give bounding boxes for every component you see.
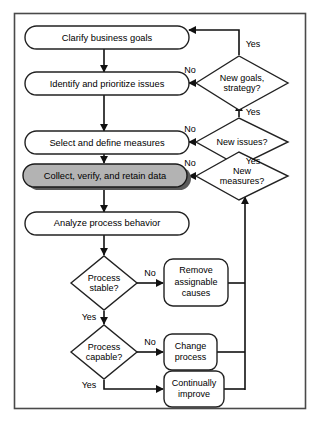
label-stable-no: No: [144, 268, 156, 278]
change-process-label-line2: process: [175, 352, 207, 362]
continually-improve-label-line1: Continually: [172, 378, 217, 388]
node-remove-assignable-causes[interactable]: Remove assignable causes: [164, 259, 228, 306]
new-goals-label-line2: strategy?: [223, 83, 260, 93]
node-identify-prioritize-issues[interactable]: Identify and prioritize issues: [25, 72, 189, 95]
label-new-goals-yes: Yes: [246, 39, 261, 49]
clarify-goals-label: Clarify business goals: [62, 33, 153, 43]
label-new-issues-yes: Yes: [246, 107, 261, 117]
new-measures-label-line1: New: [233, 166, 252, 176]
node-select-define-measures[interactable]: Select and define measures: [25, 131, 189, 154]
label-new-measures-yes: Yes: [246, 156, 261, 166]
process-capable-label-line1: Process: [88, 342, 121, 352]
new-goals-label-line1: New goals,: [220, 73, 265, 83]
change-process-label-line1: Change: [175, 341, 207, 351]
label-stable-yes: Yes: [82, 312, 97, 322]
new-measures-label-line2: measures?: [220, 176, 265, 186]
remove-causes-label-line2: assignable: [174, 277, 217, 287]
process-capable-label-line2: capable?: [86, 352, 123, 362]
node-change-process[interactable]: Change process: [164, 334, 217, 370]
node-analyze-process-behavior[interactable]: Analyze process behavior: [25, 212, 189, 235]
label-capable-yes: Yes: [82, 380, 97, 390]
process-stable-label-line1: Process: [88, 273, 121, 283]
flowchart-container: Clarify business goals Identify and prio…: [0, 0, 320, 423]
node-continually-improve[interactable]: Continually improve: [164, 371, 224, 407]
analyze-behavior-label: Analyze process behavior: [54, 218, 160, 228]
label-new-measures-no: No: [184, 158, 196, 168]
remove-causes-label-line3: causes: [182, 288, 211, 298]
identify-issues-label: Identify and prioritize issues: [50, 79, 165, 89]
remove-causes-label-line1: Remove: [179, 265, 213, 275]
select-measures-label: Select and define measures: [49, 138, 165, 148]
process-stable-label-line2: stable?: [89, 283, 118, 293]
collect-data-label: Collect, verify, and retain data: [44, 171, 167, 181]
label-capable-no: No: [144, 337, 156, 347]
label-new-issues-no: No: [184, 124, 196, 134]
node-collect-verify-retain-data[interactable]: Collect, verify, and retain data: [23, 164, 191, 190]
continually-improve-label-line2: improve: [178, 389, 210, 399]
new-issues-label-line1: New issues?: [216, 137, 267, 147]
flowchart-svg: Clarify business goals Identify and prio…: [0, 0, 320, 423]
node-clarify-business-goals[interactable]: Clarify business goals: [25, 26, 189, 49]
label-new-goals-no: No: [184, 65, 196, 75]
